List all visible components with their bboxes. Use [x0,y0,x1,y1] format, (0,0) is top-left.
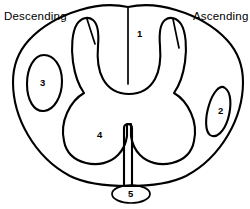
region-marker-5: 5 [128,189,133,199]
region-marker-1: 1 [137,29,142,39]
descending-side-label: Descending [4,11,67,23]
region-marker-3: 3 [40,78,45,88]
ascending-side-label: Ascending [193,11,249,23]
region-marker-4: 4 [97,130,102,140]
region-marker-2: 2 [218,106,223,116]
spinal-cord-figure: Descending Ascending 1 2 3 4 5 [0,0,250,209]
spinal-cord-diagram [0,0,250,209]
